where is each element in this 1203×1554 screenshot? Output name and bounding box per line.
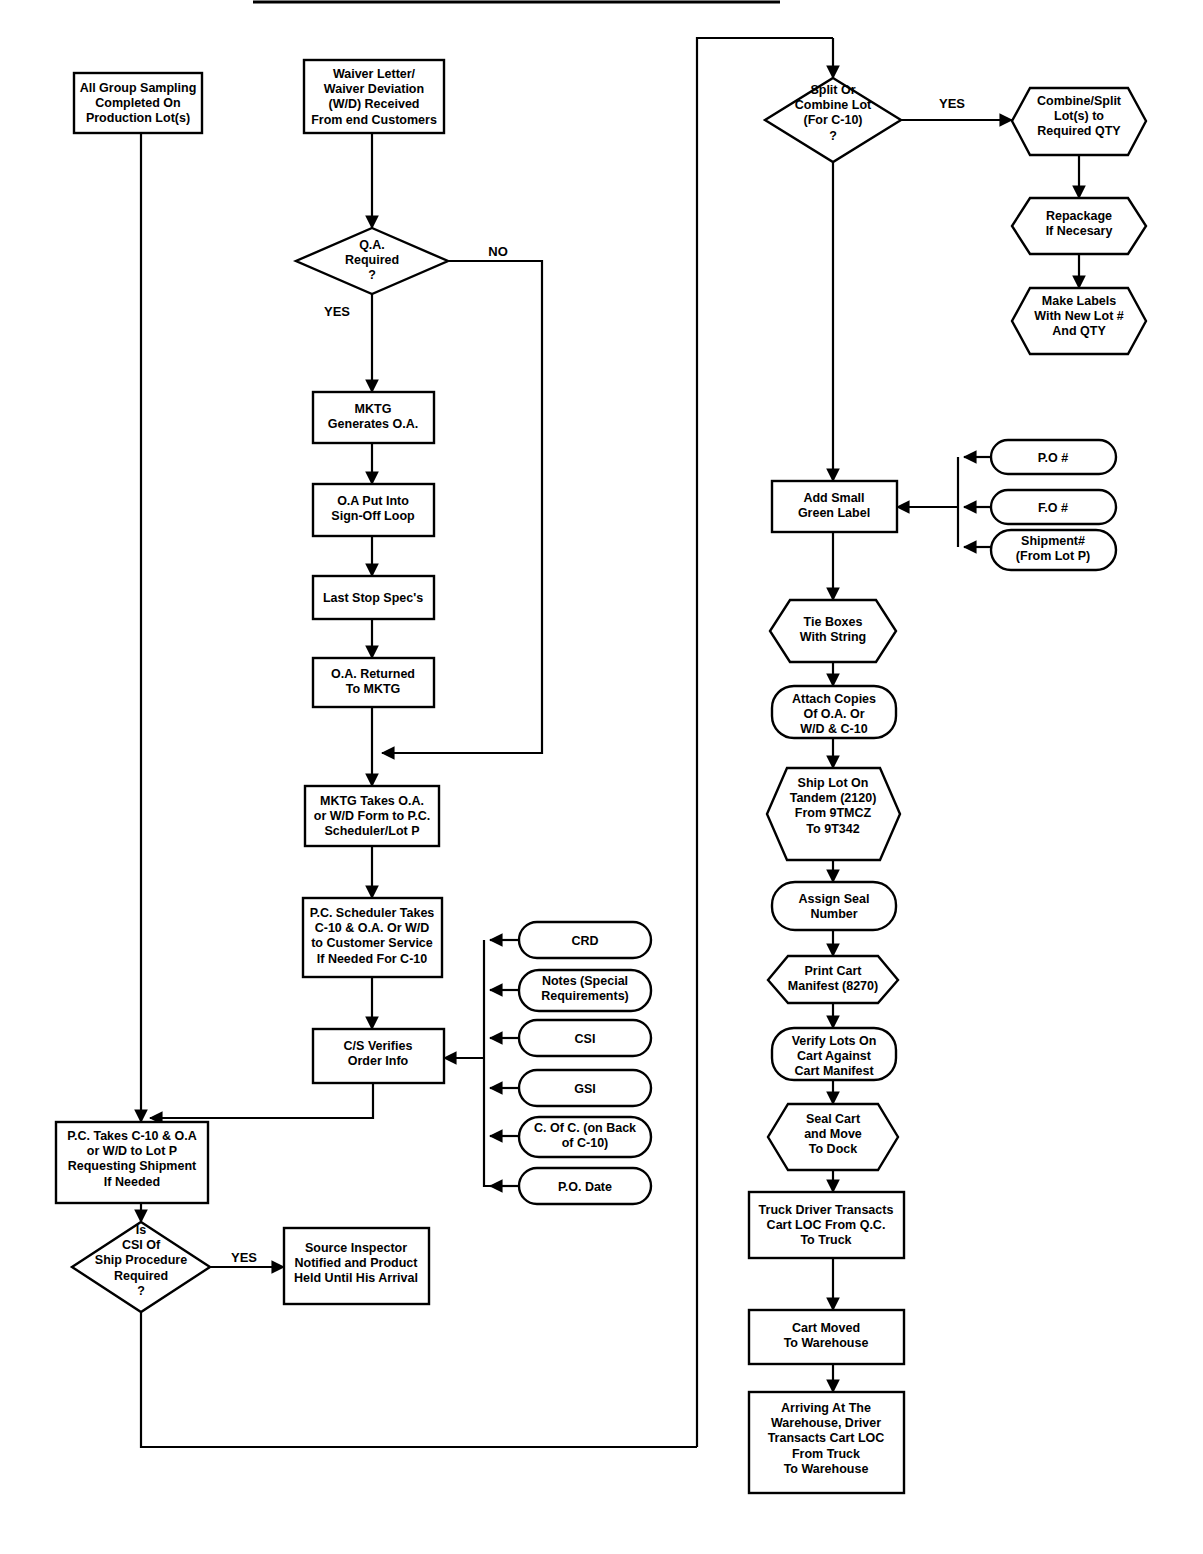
node-label: C/S VerifiesOrder Info bbox=[344, 1039, 413, 1068]
node-oa-returned[interactable]: O.A. ReturnedTo MKTG bbox=[313, 658, 434, 707]
node-label: Verify Lots OnCart AgainstCart Manifest bbox=[792, 1034, 877, 1078]
node-assign-seal[interactable]: Assign SealNumber bbox=[772, 882, 896, 930]
node-all-group-sampling[interactable]: All Group SamplingCompleted OnProduction… bbox=[74, 73, 202, 133]
node-label: P.O # bbox=[1038, 451, 1068, 465]
node-verify-lots[interactable]: Verify Lots OnCart AgainstCart Manifest bbox=[772, 1028, 896, 1080]
node-truck-driver-transacts[interactable]: Truck Driver TransactsCart LOC From Q.C.… bbox=[749, 1192, 904, 1258]
edge-csi-no-to-right-column bbox=[141, 1312, 697, 1447]
node-cart-moved[interactable]: Cart MovedTo Warehouse bbox=[749, 1310, 904, 1364]
edge-label-csi-yes: YES bbox=[231, 1250, 257, 1265]
flowchart-page: YES NO YES YES All Group SamplingComplet… bbox=[0, 0, 1203, 1554]
node-label: Shipment#(From Lot P) bbox=[1016, 534, 1090, 563]
node-green-label-shipment[interactable]: Shipment#(From Lot P) bbox=[991, 530, 1116, 570]
node-label: CRD bbox=[571, 934, 598, 948]
node-order-info-cofc[interactable]: C. Of C. (on Backof C-10) bbox=[519, 1117, 651, 1157]
node-order-info-crd[interactable]: CRD bbox=[519, 922, 651, 958]
node-label: F.O # bbox=[1038, 501, 1068, 515]
node-waiver-letter[interactable]: Waiver Letter/Waiver Deviation(W/D) Rece… bbox=[304, 60, 444, 133]
node-order-info-notes[interactable]: Notes (SpecialRequirements) bbox=[519, 970, 651, 1011]
node-label: Add SmallGreen Label bbox=[798, 491, 870, 520]
node-print-cart-manifest[interactable]: Print CartManifest (8270) bbox=[768, 956, 898, 1003]
order-info-arrow-6-line bbox=[484, 1158, 519, 1186]
node-tie-boxes[interactable]: Tie BoxesWith String bbox=[770, 600, 896, 662]
node-make-labels[interactable]: Make LabelsWith New Lot #And QTY bbox=[1012, 288, 1146, 354]
node-green-label-po[interactable]: P.O # bbox=[991, 440, 1116, 474]
node-attach-copies[interactable]: Attach CopiesOf O.A. OrW/D & C-10 bbox=[772, 686, 896, 738]
node-label: Notes (SpecialRequirements) bbox=[541, 974, 629, 1003]
node-label: CSI bbox=[575, 1032, 596, 1046]
node-mktg-takes-oa[interactable]: MKTG Takes O.A.or W/D Form to P.C.Schedu… bbox=[305, 786, 439, 846]
edge-label-split-yes: YES bbox=[939, 96, 965, 111]
flowchart-canvas: YES NO YES YES All Group SamplingComplet… bbox=[0, 0, 1203, 1554]
node-oa-signoff-loop[interactable]: O.A Put IntoSign-Off Loop bbox=[313, 484, 434, 536]
node-arriving-warehouse[interactable]: Arriving At TheWarehouse, DriverTransact… bbox=[749, 1392, 904, 1493]
node-repackage[interactable]: RepackageIf Necesary bbox=[1012, 198, 1146, 254]
node-label: Arriving At TheWarehouse, DriverTransact… bbox=[768, 1401, 885, 1476]
node-label: Last Stop Spec's bbox=[323, 591, 423, 605]
node-label: Attach CopiesOf O.A. OrW/D & C-10 bbox=[792, 692, 876, 736]
node-label: Tie BoxesWith String bbox=[800, 615, 867, 644]
node-order-info-podate[interactable]: P.O. Date bbox=[519, 1168, 651, 1204]
node-label: O.A Put IntoSign-Off Loop bbox=[331, 494, 415, 523]
edge-label-qa-no: NO bbox=[488, 244, 508, 259]
node-label: Cart MovedTo Warehouse bbox=[784, 1321, 869, 1350]
node-split-or-combine[interactable]: Split OrCombine Lot(For C-10)? bbox=[765, 78, 901, 162]
node-label: RepackageIf Necesary bbox=[1046, 209, 1113, 238]
node-order-info-csi[interactable]: CSI bbox=[519, 1020, 651, 1056]
node-label: Seal Cartand MoveTo Dock bbox=[804, 1112, 862, 1156]
node-source-inspector[interactable]: Source InspectorNotified and ProductHeld… bbox=[284, 1228, 429, 1304]
edge-cs-to-pctakes bbox=[150, 1083, 373, 1118]
node-pc-scheduler-takes[interactable]: P.C. Scheduler TakesC-10 & O.A. Or W/Dto… bbox=[303, 898, 442, 977]
node-label: MKTG Takes O.A.or W/D Form to P.C.Schedu… bbox=[314, 794, 430, 838]
node-add-small-green-label[interactable]: Add SmallGreen Label bbox=[772, 481, 897, 532]
node-label: Source InspectorNotified and ProductHeld… bbox=[294, 1241, 418, 1285]
node-csi-ship-procedure[interactable]: IsCSI OfShip ProcedureRequired? bbox=[72, 1222, 210, 1312]
edge-label-qa-yes: YES bbox=[324, 304, 350, 319]
node-order-info-gsi[interactable]: GSI bbox=[519, 1070, 651, 1106]
node-last-stop-specs[interactable]: Last Stop Spec's bbox=[313, 576, 434, 619]
node-qa-required[interactable]: Q.A.Required? bbox=[296, 228, 448, 294]
node-green-label-fo[interactable]: F.O # bbox=[991, 490, 1116, 524]
node-cs-verifies[interactable]: C/S VerifiesOrder Info bbox=[313, 1029, 444, 1083]
node-pc-takes-c10[interactable]: P.C. Takes C-10 & O.Aor W/D to Lot PRequ… bbox=[56, 1122, 208, 1203]
node-combine-split-lots[interactable]: Combine/SplitLot(s) toRequired QTY bbox=[1012, 88, 1146, 155]
node-label: All Group SamplingCompleted OnProduction… bbox=[80, 81, 197, 125]
node-label: GSI bbox=[574, 1082, 596, 1096]
connector-layer bbox=[141, 38, 1079, 1447]
node-seal-cart[interactable]: Seal Cartand MoveTo Dock bbox=[768, 1104, 898, 1170]
node-mktg-generates-oa[interactable]: MKTGGenerates O.A. bbox=[313, 392, 434, 443]
node-label: P.O. Date bbox=[558, 1180, 612, 1194]
node-ship-lot-tandem[interactable]: Ship Lot OnTandem (2120)From 9TMCZTo 9T3… bbox=[767, 768, 900, 860]
node-label: P.C. Scheduler TakesC-10 & O.A. Or W/Dto… bbox=[310, 906, 435, 966]
